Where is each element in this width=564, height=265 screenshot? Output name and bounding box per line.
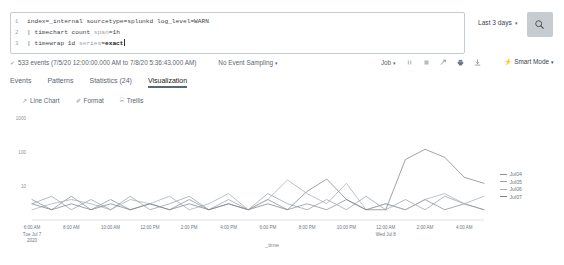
search-actions-toolbar: Job▾ ⚡Smart Mode▾ bbox=[381, 58, 554, 66]
x-axis-date-label: Tue Jul 7 bbox=[23, 232, 42, 237]
legend-swatch bbox=[500, 181, 507, 182]
line-number-2: 2 bbox=[15, 27, 27, 38]
x-axis-tick-label: 8:00 AM bbox=[63, 225, 80, 230]
x-axis-tick-label: 6:00 PM bbox=[259, 225, 276, 230]
results-tabs: Events Patterns Statistics (24) Visualiz… bbox=[10, 73, 554, 91]
event-sampling-label: No Event Sampling bbox=[218, 59, 273, 66]
event-sampling-dropdown[interactable]: No Event Sampling▾ bbox=[218, 59, 278, 66]
chevron-down-icon: ▾ bbox=[515, 20, 518, 26]
search-button[interactable] bbox=[527, 12, 553, 37]
job-menu[interactable]: Job▾ bbox=[381, 59, 396, 66]
search-status-bar: ✓ 533 events (7/5/20 12:00:00.000 AM to … bbox=[10, 55, 554, 69]
x-axis-tick-label: 10:00 AM bbox=[101, 225, 120, 230]
spl-query-editor[interactable]: 1 index=_internal sourcetype=splunkd log… bbox=[10, 12, 465, 54]
spl-line-3-value: exact bbox=[105, 40, 124, 47]
legend-swatch bbox=[500, 196, 507, 197]
spl-line-1: 1 index=_internal sourcetype=splunkd log… bbox=[15, 16, 460, 27]
chart-series-line[interactable] bbox=[32, 196, 484, 210]
legend-label: Jul04 bbox=[510, 171, 522, 177]
tab-patterns[interactable]: Patterns bbox=[47, 77, 73, 88]
x-axis-date-label: Wed Jul 8 bbox=[376, 232, 396, 237]
legend-item-jul04[interactable]: Jul04 bbox=[500, 171, 522, 177]
tab-statistics[interactable]: Statistics (24) bbox=[89, 77, 131, 88]
chevron-down-icon: ▾ bbox=[275, 60, 278, 66]
pause-icon[interactable] bbox=[405, 58, 413, 66]
x-axis-tick-label: 8:00 PM bbox=[299, 225, 316, 230]
chart-legend: Jul04 Jul05 Jul06 Jul07 bbox=[500, 171, 522, 200]
y-axis-tick-label: 10 bbox=[21, 184, 27, 189]
chart-series-line[interactable] bbox=[32, 149, 484, 209]
time-range-label: Last 3 days bbox=[478, 19, 512, 26]
legend-item-jul05[interactable]: Jul05 bbox=[500, 179, 522, 185]
spl-line-1-text: index=_internal sourcetype=splunkd log_l… bbox=[27, 16, 209, 27]
time-range-picker[interactable]: Last 3 days ▾ bbox=[473, 12, 523, 33]
spl-line-3: 3 | timewrap 1d series=exact bbox=[15, 38, 460, 49]
spl-line-3-command: | timewrap 1d bbox=[27, 40, 79, 47]
search-mode-label: Smart Mode bbox=[514, 58, 549, 65]
chevron-down-icon: ▾ bbox=[393, 60, 396, 66]
legend-label: Jul05 bbox=[510, 179, 522, 185]
trellis-button[interactable]: ⌸ Trellis bbox=[120, 97, 144, 104]
x-axis-tick-label: 4:00 PM bbox=[220, 225, 237, 230]
search-bar-row: 1 index=_internal sourcetype=splunkd log… bbox=[10, 12, 554, 52]
spl-line-1-query: index=_internal sourcetype=splunkd log_l… bbox=[27, 18, 209, 25]
tab-visualization[interactable]: Visualization bbox=[148, 77, 187, 88]
visualization-controls: ↗ Line Chart ✐ Format ⌸ Trellis bbox=[22, 97, 144, 104]
spl-line-2-arg: span bbox=[94, 29, 109, 36]
x-axis-tick-label: 10:00 PM bbox=[337, 225, 357, 230]
chart-type-label: Line Chart bbox=[30, 97, 60, 104]
legend-swatch bbox=[500, 174, 507, 175]
spl-line-2-value: =1h bbox=[109, 29, 120, 36]
spl-line-3-arg: series bbox=[79, 40, 101, 47]
print-icon[interactable] bbox=[456, 58, 464, 66]
x-axis-tick-label: 4:00 AM bbox=[456, 225, 473, 230]
chevron-down-icon: ▾ bbox=[551, 59, 554, 65]
legend-item-jul07[interactable]: Jul07 bbox=[500, 194, 522, 200]
x-axis-title: _time bbox=[0, 242, 564, 248]
chart-type-selector[interactable]: ↗ Line Chart bbox=[22, 97, 60, 104]
x-axis-tick-label: 2:00 PM bbox=[181, 225, 198, 230]
job-label: Job bbox=[381, 59, 391, 66]
y-axis-tick-label: 100 bbox=[18, 150, 26, 155]
trellis-label: Trellis bbox=[127, 97, 144, 104]
spl-line-2-command: | timechart count bbox=[27, 29, 94, 36]
search-mode-selector[interactable]: ⚡Smart Mode▾ bbox=[504, 58, 554, 66]
share-icon[interactable] bbox=[439, 58, 447, 66]
pencil-icon: ✐ bbox=[76, 97, 81, 104]
text-caret bbox=[124, 39, 125, 46]
x-axis-tick-label: 6:00 AM bbox=[24, 225, 41, 230]
legend-label: Jul06 bbox=[510, 186, 522, 192]
line-number-1: 1 bbox=[15, 16, 27, 27]
x-axis-title-text: _time bbox=[265, 242, 279, 248]
chart-canvas: 1000100106:00 AMTue Jul 720208:00 AM10:0… bbox=[10, 112, 554, 254]
legend-label: Jul07 bbox=[510, 194, 522, 200]
spl-line-3-text: | timewrap 1d series=exact bbox=[27, 38, 125, 49]
event-count-text: 533 events (7/5/20 12:00:00.000 AM to 7/… bbox=[18, 59, 196, 66]
tab-events[interactable]: Events bbox=[10, 77, 31, 88]
search-icon bbox=[534, 19, 545, 30]
line-chart-icon: ↗ bbox=[22, 97, 27, 104]
grid-icon: ⌸ bbox=[120, 97, 124, 104]
x-axis-tick-label: 2:00 AM bbox=[417, 225, 434, 230]
check-icon: ✓ bbox=[10, 59, 15, 66]
format-button[interactable]: ✐ Format bbox=[76, 97, 104, 104]
spl-line-2: 2 | timechart count span=1h bbox=[15, 27, 460, 38]
legend-item-jul06[interactable]: Jul06 bbox=[500, 186, 522, 192]
bolt-icon: ⚡ bbox=[504, 58, 512, 65]
legend-swatch bbox=[500, 189, 507, 190]
stop-icon[interactable] bbox=[422, 58, 430, 66]
line-number-3: 3 bbox=[15, 38, 27, 49]
timewrap-line-chart: 1000100106:00 AMTue Jul 720208:00 AM10:0… bbox=[10, 112, 554, 254]
x-axis-tick-label: 12:00 AM bbox=[376, 225, 395, 230]
y-axis-tick-label: 1000 bbox=[16, 116, 27, 121]
x-axis-tick-label: 12:00 PM bbox=[140, 225, 160, 230]
spl-line-2-text: | timechart count span=1h bbox=[27, 27, 120, 38]
format-label: Format bbox=[84, 97, 104, 104]
export-icon[interactable] bbox=[473, 58, 481, 66]
